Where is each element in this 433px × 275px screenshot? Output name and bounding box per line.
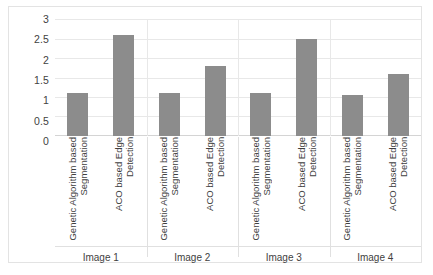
y-tick-label: 0: [43, 135, 49, 147]
series-label-group: Genetic Algorithm based SegmentationACO …: [330, 137, 422, 247]
series-label: ACO based Edge Detection: [387, 137, 409, 211]
series-label-cell: Genetic Algorithm based Segmentation: [330, 137, 376, 247]
bar[interactable]: [250, 93, 271, 136]
bar[interactable]: [67, 93, 88, 136]
series-label-group: Genetic Algorithm based SegmentationACO …: [55, 137, 147, 247]
bar[interactable]: [388, 74, 409, 136]
series-label-cell: Genetic Algorithm based Segmentation: [238, 137, 284, 247]
y-tick-label: 2.5: [34, 33, 49, 45]
y-tick-label: 0.5: [34, 115, 49, 127]
y-tick-label: 1: [43, 94, 49, 106]
bar[interactable]: [113, 35, 134, 136]
series-label-group: Genetic Algorithm based SegmentationACO …: [147, 137, 239, 247]
series-label-cell: ACO based Edge Detection: [192, 137, 238, 247]
bar-cell: [192, 19, 238, 136]
y-tick-label: 3: [43, 13, 49, 25]
series-label-cell: ACO based Edge Detection: [284, 137, 330, 247]
bar-cell: [147, 19, 193, 136]
bar[interactable]: [205, 66, 226, 136]
bar-cell: [330, 19, 376, 136]
series-label: Genetic Algorithm based Segmentation: [67, 137, 89, 241]
category-label: Image 4: [330, 247, 422, 267]
category-label: Image 3: [238, 247, 330, 267]
bar-group: [238, 19, 330, 136]
bar-cell: [375, 19, 421, 136]
y-tick-label: 2: [43, 54, 49, 66]
bar-cell: [55, 19, 101, 136]
series-label: Genetic Algorithm based Segmentation: [250, 137, 272, 241]
bar-cell: [284, 19, 330, 136]
series-label-cell: Genetic Algorithm based Segmentation: [147, 137, 193, 247]
series-label: ACO based Edge Detection: [204, 137, 226, 211]
y-tick-label: 1.5: [34, 74, 49, 86]
series-label-cell: ACO based Edge Detection: [101, 137, 147, 247]
category-label: Image 1: [55, 247, 147, 267]
category-label-row: Image 1Image 2Image 3Image 4: [55, 247, 421, 267]
series-label: Genetic Algorithm based Segmentation: [158, 137, 180, 241]
category-label: Image 2: [147, 247, 239, 267]
plot-area: [55, 19, 421, 136]
series-label-row: Genetic Algorithm based SegmentationACO …: [55, 137, 421, 247]
series-label: ACO based Edge Detection: [296, 137, 318, 211]
series-label-cell: ACO based Edge Detection: [375, 137, 421, 247]
bar-group: [147, 19, 239, 136]
bar-series-container: [55, 19, 421, 136]
chart-container: 3 2.5 2 1.5 1 0.5 0 Genetic Algorithm ba…: [8, 6, 422, 263]
bar[interactable]: [296, 39, 317, 137]
bar[interactable]: [342, 95, 363, 136]
bar-group: [55, 19, 147, 136]
bar-cell: [101, 19, 147, 136]
y-axis: 3 2.5 2 1.5 1 0.5 0: [23, 19, 49, 141]
bar-group: [330, 19, 422, 136]
series-label: ACO based Edge Detection: [113, 137, 135, 211]
series-label-cell: Genetic Algorithm based Segmentation: [55, 137, 101, 247]
bar[interactable]: [159, 93, 180, 136]
series-label-group: Genetic Algorithm based SegmentationACO …: [238, 137, 330, 247]
bar-cell: [238, 19, 284, 136]
series-label: Genetic Algorithm based Segmentation: [341, 137, 363, 241]
